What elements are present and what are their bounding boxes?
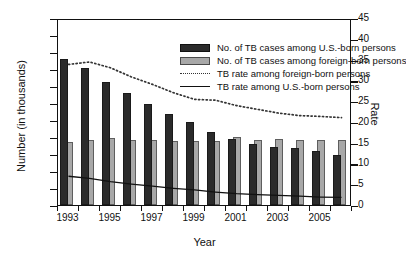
y-tickmark-right [351,144,358,145]
y-tickmark-left [50,206,57,207]
legend-label: TB rate among foreign-born persons [217,68,370,79]
y-tickmark-right [351,123,358,124]
y-tickmark-right [351,19,358,20]
y-tickmark-left [50,53,57,54]
legend-item-0: No. of TB cases among U.S.-born persons [180,42,406,54]
y-tickmark-right [351,185,358,186]
plot-area: No. of TB cases among U.S.-born personsN… [57,19,351,206]
dotted-line-swatch [180,73,210,74]
y-tickmark-left [50,155,57,156]
legend-label: No. of TB cases among foreign-born perso… [217,55,406,66]
y-tickmark-right [351,102,358,103]
legend-item-1: No. of TB cases among foreign-born perso… [180,55,406,67]
us-born-rate-line [69,176,342,197]
y-tickmark-left [50,19,57,20]
x-tick-label-2001: 2001 [216,212,256,223]
legend-item-3: TB rate among U.S.-born persons [180,81,406,93]
y-tick-right-20: 20 [358,117,388,127]
x-axis-title: Year [57,236,352,248]
x-tick-label-1995: 1995 [90,212,130,223]
y-tickmark-left [50,87,57,88]
x-tick-label-1997: 1997 [132,212,172,223]
solid-line-swatch [180,86,210,87]
legend-item-2: TB rate among foreign-born persons [180,68,406,80]
y-tickmark-left [50,172,57,173]
y-tick-right-5: 5 [358,179,388,189]
y-tickmark-right [351,40,358,41]
y-tickmark-right [351,164,358,165]
legend-label: No. of TB cases among U.S.-born persons [217,42,396,53]
dark-bar-swatch [180,44,210,52]
gray-bar-swatch-icon [180,55,210,66]
x-tick-label-1999: 1999 [174,212,214,223]
y-tickmark-left [50,104,57,105]
x-tick-label-1993: 1993 [48,212,88,223]
y-tickmark-left [50,189,57,190]
y-tickmark-left [50,138,57,139]
dotted-line-swatch-icon [180,68,210,79]
y-tick-right-45: 45 [358,13,388,23]
y-tick-right-0: 0 [358,200,388,210]
legend-label: TB rate among U.S.-born persons [217,81,360,92]
y-tick-right-25: 25 [358,96,388,106]
y-tickmark-left [50,36,57,37]
y-axis-left-title: Number (in thousands) [15,51,27,181]
y-tickmark-left [50,121,57,122]
y-tick-right-15: 15 [358,138,388,148]
dark-bar-swatch-icon [180,42,210,53]
x-tick-label-2003: 2003 [258,212,298,223]
x-tick-label-2005: 2005 [300,212,340,223]
solid-line-swatch-icon [180,81,210,92]
gray-bar-swatch [180,57,210,65]
y-tickmark-left [50,70,57,71]
y-tick-right-10: 10 [358,158,388,168]
chart-legend: No. of TB cases among U.S.-born personsN… [180,42,406,94]
